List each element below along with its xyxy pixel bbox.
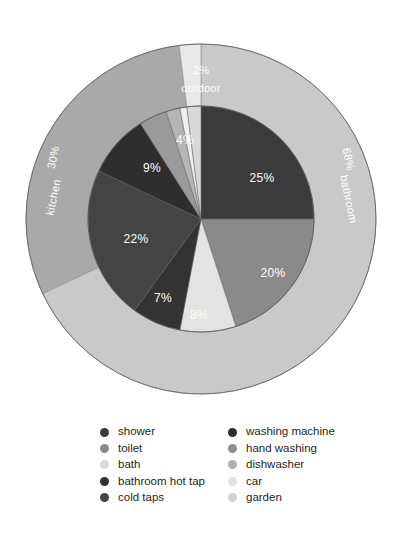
legend-item[interactable]: bathroom hot tap: [100, 473, 205, 489]
legend-item-label: hand washing: [246, 443, 317, 455]
legend-swatch-icon: [228, 493, 237, 502]
legend-item-label: garden: [246, 492, 282, 504]
legend-item-label: dishwasher: [246, 459, 304, 471]
legend-item-label: toilet: [118, 443, 142, 455]
legend-swatch-icon: [228, 460, 237, 469]
pie-chart: 2% outdoor 68% bathroom 30% kitchen 25% …: [0, 0, 401, 420]
legend-item[interactable]: bath: [100, 457, 205, 473]
legend-item-label: washing machine: [246, 426, 335, 438]
legend-swatch-icon: [100, 493, 109, 502]
legend-item[interactable]: washing machine: [228, 424, 335, 440]
slice-label-bathroom-hot-tap: 7%: [154, 291, 172, 305]
slice-label-bath: 8%: [190, 308, 208, 322]
legend-item-label: car: [246, 476, 262, 488]
legend-column-left: showertoiletbathbathroom hot tapcold tap…: [100, 424, 205, 506]
legend-item-label: shower: [118, 426, 155, 438]
legend-item[interactable]: shower: [100, 424, 205, 440]
legend-item-label: bathroom hot tap: [118, 476, 205, 488]
legend-item[interactable]: hand washing: [228, 440, 335, 456]
legend-swatch-icon: [228, 477, 237, 486]
legend-swatch-icon: [228, 428, 237, 437]
legend-swatch-icon: [228, 444, 237, 453]
ring-label-outdoor-pct: 2%: [193, 64, 210, 76]
ring-label-outdoor-name: outdoor: [181, 82, 220, 94]
slice-label-cold-taps: 22%: [123, 232, 148, 246]
slice-label-toilet: 20%: [260, 266, 285, 280]
legend-swatch-icon: [100, 460, 109, 469]
inner-pie-group: [88, 106, 314, 332]
legend-column-right: washing machinehand washingdishwashercar…: [228, 424, 335, 506]
legend-swatch-icon: [100, 428, 109, 437]
legend-item-label: cold taps: [118, 492, 164, 504]
legend-item-label: bath: [118, 459, 140, 471]
legend: showertoiletbathbathroom hot tapcold tap…: [0, 424, 401, 519]
slice-label-shower: 25%: [249, 171, 274, 185]
legend-item[interactable]: dishwasher: [228, 457, 335, 473]
legend-item[interactable]: car: [228, 473, 335, 489]
legend-item[interactable]: toilet: [100, 440, 205, 456]
legend-swatch-icon: [100, 444, 109, 453]
legend-swatch-icon: [100, 477, 109, 486]
legend-item[interactable]: cold taps: [100, 490, 205, 506]
slice-label-hand-washing: 4%: [176, 133, 194, 147]
pie-chart-svg: 2% outdoor 68% bathroom 30% kitchen 25% …: [0, 0, 401, 420]
legend-item[interactable]: garden: [228, 490, 335, 506]
slice-label-washing-machine: 9%: [143, 161, 161, 175]
